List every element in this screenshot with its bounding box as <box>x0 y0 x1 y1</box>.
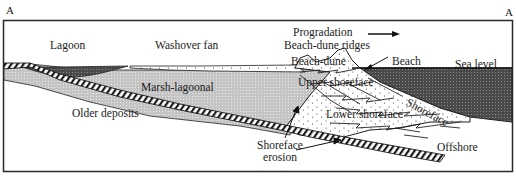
label-lagoon: Lagoon <box>50 39 85 51</box>
corner-label-left: A <box>6 4 14 16</box>
label-older-deposits: Older deposits <box>72 107 139 119</box>
label-beach-dune-ridges: Beach-dune ridges <box>284 39 370 51</box>
label-washover-fan: Washover fan <box>155 39 218 51</box>
label-shoreface-erosion-line1: Shoreface <box>250 139 310 151</box>
label-offshore: Offshore <box>437 141 478 153</box>
label-progradation: Progradation <box>293 26 352 38</box>
label-sea-level: Sea level <box>455 58 497 70</box>
label-beach: Beach <box>392 55 421 67</box>
label-upper-shoreface: Upper shoreface <box>298 76 374 88</box>
corner-label-right: A <box>505 6 513 18</box>
progradation-arrow-icon <box>368 31 400 37</box>
label-shoreface-erosion-line2: erosion <box>250 151 310 163</box>
label-lower-shoreface: Lower shoreface <box>326 108 403 120</box>
label-beach-dune: Beach-dune <box>291 55 346 67</box>
label-marsh-lagoonal: Marsh-lagoonal <box>141 81 214 93</box>
